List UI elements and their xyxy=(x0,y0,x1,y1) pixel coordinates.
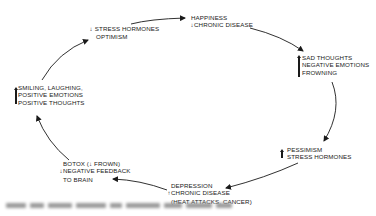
up-arrow-icon xyxy=(15,90,17,104)
arrow-stress-to-happiness xyxy=(131,18,185,24)
arrow-botox-to-smiling xyxy=(37,116,69,160)
node-smiling: SMILING, LAUGHING, POSITIVE EMOTIONS POS… xyxy=(18,84,85,106)
up-arrow-icon xyxy=(281,152,283,158)
node-stress-down: ↓ STRESS HORMONES OPTIMISM xyxy=(89,25,159,41)
down-arrow-icon: ↓ xyxy=(89,26,93,33)
node-happiness: HAPPINESS ↓CHRONIC DISEASE xyxy=(190,14,253,30)
node-pessimism: PESSIMISM STRESS HORMONES xyxy=(287,146,351,161)
figure-caption-blurred xyxy=(6,202,236,209)
arrow-smiling-to-stress xyxy=(42,40,88,80)
arrow-sad-to-pessimism xyxy=(324,82,336,141)
node-botox: BOTOX (↓ FROWN) ↓NEGATIVE FEEDBACK TO BR… xyxy=(59,160,131,183)
up-arrow-icon xyxy=(298,58,300,77)
node-sad-thoughts: SAD THOUGHTS NEGATIVE EMOTIONS FROWNING xyxy=(302,54,369,76)
arrow-happiness-to-sad xyxy=(250,28,303,51)
